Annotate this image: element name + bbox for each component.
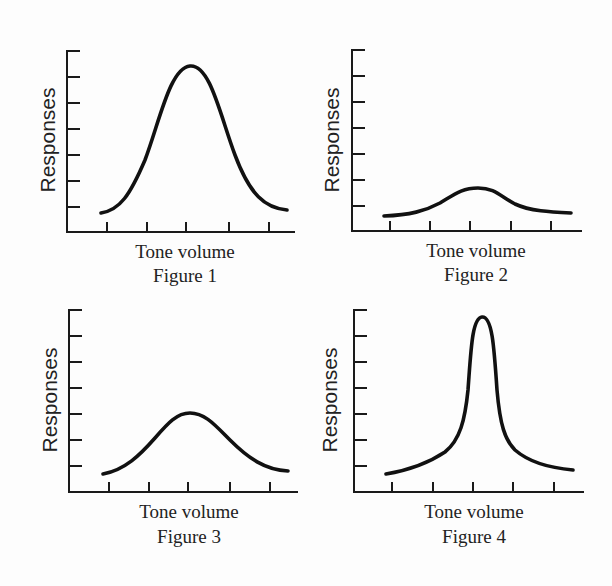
figure-1-x-label: Tone volume — [135, 241, 234, 262]
figure-3-caption: Figure 3 — [157, 526, 221, 547]
figure-1-y-ticks — [67, 77, 80, 207]
figure-2-caption: Figure 2 — [444, 264, 508, 285]
figure-2-y-label: Responses — [320, 87, 343, 192]
figure-4-caption: Figure 4 — [442, 526, 506, 547]
figure-3-y-label: Responses — [38, 347, 61, 452]
figure-4-y-label: Responses — [318, 347, 341, 452]
figure-2-x-label: Tone volume — [426, 240, 525, 261]
figure-2-axes — [352, 50, 582, 231]
figure-4: Responses Tone volume Figure 4 — [318, 310, 584, 547]
figure-2-x-ticks — [390, 221, 551, 231]
figure-1-axes — [67, 51, 295, 232]
figure-3-y-ticks — [69, 336, 82, 466]
figure-4-x-ticks — [392, 482, 554, 492]
figure-3-x-ticks — [109, 482, 270, 492]
figure-1-x-ticks — [107, 222, 269, 232]
figures-canvas: Responses Tone volume Figure 1 Responses… — [0, 0, 612, 586]
figure-1-caption: Figure 1 — [153, 265, 217, 286]
figure-2-y-ticks — [352, 76, 365, 206]
figure-4-curve — [386, 317, 573, 474]
figure-3: Responses Tone volume Figure 3 — [38, 310, 298, 547]
figure-3-curve — [103, 413, 288, 474]
figure-1-curve — [101, 66, 287, 213]
figure-2: Responses Tone volume Figure 2 — [320, 50, 582, 285]
figure-3-x-label: Tone volume — [139, 501, 238, 522]
figure-4-y-ticks — [354, 336, 367, 466]
figure-4-x-label: Tone volume — [424, 501, 523, 522]
figure-1-y-label: Responses — [36, 87, 59, 192]
figure-2-curve — [384, 188, 571, 216]
figure-1: Responses Tone volume Figure 1 — [36, 51, 295, 286]
